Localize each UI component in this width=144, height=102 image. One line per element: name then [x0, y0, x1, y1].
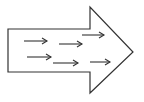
diagram-canvas: [0, 0, 144, 102]
small-right-arrow-icon: [82, 32, 104, 38]
inner-arrows-group: [24, 32, 110, 66]
small-right-arrow-icon: [53, 60, 78, 66]
small-right-arrow-icon: [27, 54, 51, 60]
big-right-arrow-icon: [8, 7, 133, 93]
flow-arrow-diagram: [0, 0, 144, 102]
small-right-arrow-icon: [90, 59, 110, 65]
small-right-arrow-icon: [24, 38, 47, 44]
small-right-arrow-icon: [59, 41, 82, 47]
